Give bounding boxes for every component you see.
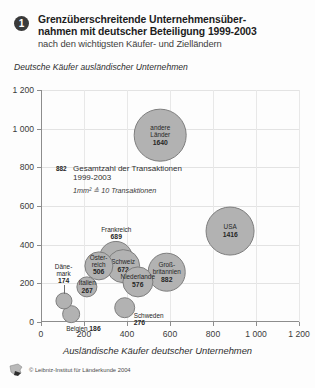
bubble-label: reich (92, 262, 106, 269)
bubble-value: 186 (89, 325, 100, 332)
bubble-großbritannien: Groß-britannien882 (147, 253, 186, 292)
bubble-value: 267 (82, 287, 93, 294)
credit-text: © Leibniz-Institut für Länderkunde 2004 (29, 367, 131, 373)
bubble-value: 174 (55, 277, 72, 284)
legend-key-value: 882 (56, 164, 73, 172)
gridline-vertical (213, 90, 214, 322)
chart-legend: 882 Gesamtzahl der Transaktionen 1999-20… (56, 164, 206, 195)
x-axis-tick (170, 322, 171, 326)
label-schweden: Schweden276 (134, 312, 164, 326)
bubble-value: 276 (134, 319, 164, 326)
x-axis-label: 1 200 (288, 329, 310, 339)
y-axis-title: Deutsche Käufer ausländischer Unternehme… (14, 62, 304, 72)
infographic-page: 1 Grenzüberschreitende Unternehmensüber-… (0, 0, 315, 388)
bubble-value: 506 (93, 269, 104, 276)
bubble-label: mark (55, 270, 72, 277)
bubble-usa: USA1416 (206, 207, 255, 256)
title-block: Grenzüberschreitende Unternehmensüber- n… (38, 14, 304, 50)
header: 1 Grenzüberschreitende Unternehmensüber-… (14, 14, 304, 50)
y-axis-label: 1 000 (12, 124, 34, 134)
bubble-label: Frankreich (101, 226, 131, 233)
x-axis-label: 1 000 (245, 329, 267, 339)
bubble-niederlande: Niederlande576 (122, 266, 153, 297)
scatter-plot: 02004006008001 0001 20002004006008001 00… (41, 90, 299, 322)
bubble-value: 1416 (223, 231, 238, 238)
x-axis-label: 600 (163, 329, 177, 339)
credit-block: © Leibniz-Institut für Länderkunde 2004 (9, 363, 131, 377)
gridline-vertical (299, 90, 300, 322)
bubble-label: Schweiz (111, 259, 135, 266)
x-axis-tick (256, 322, 257, 326)
gridline-vertical (256, 90, 257, 322)
bubble-label: Schweden (134, 312, 164, 319)
y-axis-label: 0 (29, 317, 34, 327)
legend-text-line1: Gesamtzahl der Transaktionen (73, 164, 182, 173)
x-axis-title: Ausländische Käufer deutscher Unternehme… (0, 345, 315, 356)
page-subtitle: nach den wichtigsten Käufer- und Ziellän… (38, 38, 304, 50)
y-axis-label: 200 (20, 278, 34, 288)
bubble-value: 576 (132, 281, 143, 288)
x-axis-label: 800 (206, 329, 220, 339)
bubble-label: Däne- (55, 263, 72, 270)
bubble-schweden (114, 297, 136, 319)
y-axis-label: 1 200 (12, 85, 34, 95)
legend-text-line2: 1999-2003 (73, 173, 182, 182)
x-axis-tick (299, 322, 300, 326)
x-axis-tick (41, 322, 42, 326)
bubble-value: 1640 (153, 139, 168, 146)
y-axis-label: 600 (20, 201, 34, 211)
bubble-label: Länder (150, 132, 170, 139)
bubble-label: Niederlande (121, 275, 155, 282)
bubble-andere-länder: andereLänder1640 (134, 109, 187, 162)
y-axis-line (41, 90, 42, 322)
label-dänemark: Däne-mark174 (55, 263, 72, 284)
figure-number-badge: 1 (14, 16, 29, 31)
x-axis-tick (127, 322, 128, 326)
bubble-label: britannien (153, 268, 181, 275)
label-frankreich: Frankreich689 (101, 226, 131, 240)
x-axis-label: 400 (120, 329, 134, 339)
bubble-value: 882 (161, 275, 172, 282)
bubble-label: Italien (79, 280, 96, 287)
x-axis-tick (213, 322, 214, 326)
page-title-line2: nahmen mit deutscher Beteiligung 1999-20… (38, 26, 304, 38)
bubble-label: USA (224, 224, 237, 231)
y-axis-label: 800 (20, 162, 34, 172)
bubble-italien: Italien267 (77, 277, 98, 298)
label-leader-line (64, 285, 65, 294)
x-axis-label: 0 (39, 329, 44, 339)
bubble-label: Belgien (66, 325, 89, 332)
y-axis-label: 400 (20, 240, 34, 250)
label-belgien: Belgien 186 (66, 322, 100, 332)
bubble-value: 689 (101, 233, 131, 240)
page-title-line1: Grenzüberschreitende Unternehmensüber- (38, 14, 304, 26)
legend-size-note: 1mm² ≙ 10 Transaktionen (73, 186, 206, 195)
ifl-logo-icon (9, 363, 24, 377)
